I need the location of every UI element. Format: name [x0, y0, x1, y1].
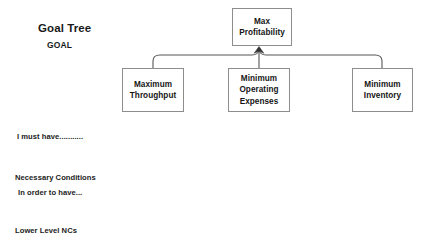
- arrowhead-icon: [254, 47, 264, 54]
- node-minimum-inventory-label: Minimum Inventory: [356, 79, 409, 102]
- legend-in-order-to-have: In order to have...: [18, 188, 82, 197]
- legend-lower-level-ncs: Lower Level NCs: [15, 226, 77, 235]
- node-maximum-throughput: Maximum Throughput: [122, 68, 184, 112]
- page-title: Goal Tree: [38, 22, 91, 34]
- legend-necessary-conditions: Necessary Conditions: [15, 173, 96, 182]
- node-maximum-throughput-label: Maximum Throughput: [126, 79, 180, 102]
- node-max-profitability-label: Max Profitability: [236, 16, 288, 39]
- legend-must-have: I must have...........: [17, 132, 83, 141]
- goal-tree-diagram: Goal Tree GOAL Max Profitability Maximum…: [0, 0, 427, 248]
- node-max-profitability: Max Profitability: [232, 8, 292, 46]
- node-minimum-operating-expenses-label: Minimum Operating Expenses: [232, 73, 286, 108]
- goal-label: GOAL: [47, 40, 72, 50]
- edge-inventory-to-goal: [259, 50, 382, 68]
- edge-throughput-to-goal: [153, 50, 259, 68]
- connector-edges: [0, 0, 427, 248]
- node-minimum-operating-expenses: Minimum Operating Expenses: [228, 68, 290, 112]
- node-minimum-inventory: Minimum Inventory: [352, 68, 413, 112]
